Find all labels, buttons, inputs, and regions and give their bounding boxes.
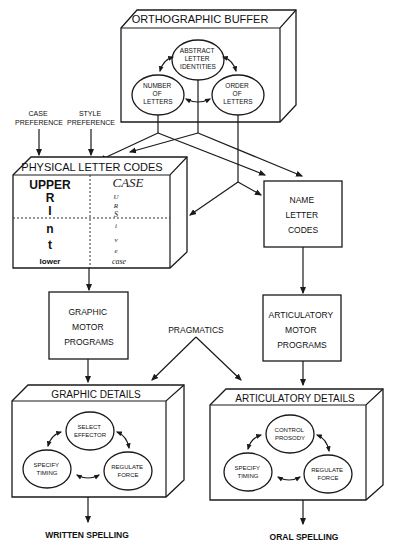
svg-text:CASE PREFERENCE: CASE PREFERENCE bbox=[15, 110, 63, 126]
svg-text:S: S bbox=[114, 210, 118, 219]
physical-letter-codes-box: PHYSICAL LETTER CODES UPPER R I n t lowe… bbox=[13, 157, 187, 268]
specify-timing-node bbox=[23, 450, 71, 488]
svg-text:I: I bbox=[48, 204, 51, 218]
svg-text:ABSTRACT LETTER ID: ABSTRACT LETTER IDENTITIES bbox=[180, 47, 217, 70]
svg-text:R: R bbox=[46, 191, 55, 205]
graphic-motor-programs-box: GRAPHIC MOTOR PROGRAMS bbox=[49, 292, 128, 359]
spelling-model-diagram: ORTHOGRAPHIC BUFFER ABSTRACT LETTER IDEN… bbox=[0, 0, 394, 545]
orthographic-buffer-title: ORTHOGRAPHIC BUFFER bbox=[132, 13, 269, 25]
regulate-force-node bbox=[104, 452, 152, 490]
articulatory-motor-programs-box: ARTICULATORY MOTOR PROGRAMS bbox=[263, 295, 341, 361]
case-preference-input: CASE PREFERENCE bbox=[15, 110, 63, 155]
svg-text:CASE: CASE bbox=[112, 175, 143, 190]
regulate-force-node bbox=[304, 455, 352, 493]
svg-text:lower: lower bbox=[40, 257, 61, 266]
svg-text:UPPER: UPPER bbox=[29, 178, 71, 192]
svg-text:STYLE PREFERENCE: STYLE PREFERENCE bbox=[67, 110, 115, 126]
graphic-details-title: GRAPHIC DETAILS bbox=[51, 389, 141, 400]
svg-text:case: case bbox=[112, 257, 127, 266]
svg-text:R: R bbox=[113, 202, 119, 210]
name-letter-codes-box: NAME LETTER CODES bbox=[264, 181, 342, 247]
select-effector-node bbox=[66, 412, 114, 450]
orthographic-buffer-box: ORTHOGRAPHIC BUFFER ABSTRACT LETTER IDEN… bbox=[121, 10, 296, 122]
svg-text:t: t bbox=[48, 238, 52, 252]
pragmatics-label: PRAGMATICS bbox=[152, 325, 241, 380]
svg-text:i: i bbox=[115, 222, 117, 230]
svg-text:n: n bbox=[46, 222, 53, 236]
svg-text:e: e bbox=[114, 247, 117, 255]
control-prosody-node bbox=[266, 415, 314, 453]
oral-spelling-output: ORAL SPELLING bbox=[270, 532, 339, 542]
specify-timing-node bbox=[224, 453, 272, 491]
articulatory-details-box: ARTICULATORY DETAILS CONTROL PROSODY SPE… bbox=[210, 389, 383, 500]
written-spelling-output: WRITTEN SPELLING bbox=[45, 530, 129, 540]
articulatory-details-title: ARTICULATORY DETAILS bbox=[235, 393, 355, 404]
graphic-details-box: GRAPHIC DETAILS SELECT EFFECTOR SPECIFY … bbox=[12, 385, 184, 497]
svg-text:PRAGMATICS: PRAGMATICS bbox=[168, 325, 224, 335]
style-preference-input: STYLE PREFERENCE bbox=[67, 110, 115, 155]
svg-text:NAME LETTER CODES: NAME LETTER CODES bbox=[286, 195, 321, 235]
physical-letter-codes-title: PHYSICAL LETTER CODES bbox=[21, 161, 162, 173]
